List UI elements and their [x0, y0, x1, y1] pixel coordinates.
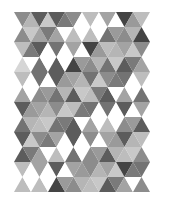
triangle-mosaic: [0, 0, 181, 211]
mosaic-svg: [0, 0, 181, 211]
